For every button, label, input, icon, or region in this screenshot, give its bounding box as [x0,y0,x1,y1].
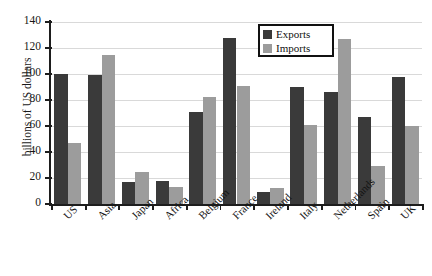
bar-exports [290,87,303,204]
x-tick [422,204,424,210]
x-category-label: US [61,203,79,221]
y-tick-label: 140 [0,14,41,26]
x-tick [321,204,323,210]
bar-chart: billions of US dollars 02040608010012014… [0,0,432,276]
y-tick-label: 0 [0,196,41,208]
chart-title [18,0,318,5]
bar-exports [257,192,270,204]
bar-exports [392,77,405,204]
x-tick [51,204,53,210]
y-tick-label: 40 [0,144,41,156]
legend: Exports Imports [258,24,334,57]
x-tick [118,204,120,210]
bar-exports [156,181,169,204]
y-tick-label: 100 [0,66,41,78]
legend-label-exports: Exports [276,29,310,40]
bar-exports [324,92,337,204]
y-tick-label: 20 [0,170,41,182]
bar-imports [338,39,351,204]
bar-imports [203,97,216,204]
legend-item-exports: Exports [263,27,329,41]
y-tick-label: 120 [0,40,41,52]
bar-exports [189,112,202,204]
x-tick [85,204,87,210]
legend-label-imports: Imports [276,43,310,54]
bar-exports [54,74,67,204]
y-tick-label: 80 [0,92,41,104]
bar-exports [88,75,101,204]
bar-imports [68,143,81,204]
bar-imports [102,55,115,205]
legend-item-imports: Imports [263,41,329,55]
legend-swatch-exports [263,30,272,39]
bar-exports [223,38,236,204]
bar-imports [405,126,418,204]
legend-swatch-imports [263,44,272,53]
bar-imports [304,125,317,204]
bar-exports [122,182,135,204]
bar-imports [237,86,250,204]
y-tick-label: 60 [0,118,41,130]
